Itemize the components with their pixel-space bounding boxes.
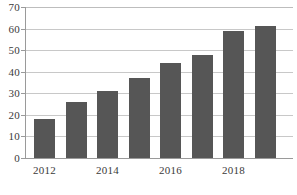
y-axis-line bbox=[25, 7, 26, 159]
y-tick-mark-40 bbox=[21, 72, 25, 73]
y-tick-mark-10 bbox=[21, 136, 25, 137]
bar-2014 bbox=[97, 91, 118, 158]
y-axis-label-60: 60 bbox=[0, 24, 20, 35]
x-axis-label-2016: 2016 bbox=[141, 164, 201, 176]
x-axis-label-2012: 2012 bbox=[15, 164, 75, 176]
y-axis-label-20: 20 bbox=[0, 110, 20, 121]
y-axis-label-30: 30 bbox=[0, 88, 20, 99]
x-axis-label-2018: 2018 bbox=[204, 164, 264, 176]
y-tick-mark-50 bbox=[21, 50, 25, 51]
y-tick-mark-0 bbox=[21, 158, 25, 159]
bar-2017 bbox=[192, 55, 213, 159]
x-axis-line bbox=[25, 158, 293, 159]
y-tick-mark-20 bbox=[21, 115, 25, 116]
bar-2012 bbox=[34, 119, 55, 158]
gridline-50 bbox=[25, 50, 293, 51]
bar-2019 bbox=[255, 26, 276, 158]
gridline-40 bbox=[25, 72, 293, 73]
y-axis-label-70: 70 bbox=[0, 2, 20, 13]
y-axis-label-10: 10 bbox=[0, 131, 20, 142]
bar-2013 bbox=[66, 102, 87, 158]
y-axis-label-0: 0 bbox=[0, 153, 20, 164]
y-tick-mark-30 bbox=[21, 93, 25, 94]
y-tick-mark-60 bbox=[21, 29, 25, 30]
bar-2016 bbox=[160, 63, 181, 158]
gridline-60 bbox=[25, 29, 293, 30]
bar-2018 bbox=[223, 31, 244, 158]
plot-area bbox=[25, 7, 293, 158]
y-axis-label-50: 50 bbox=[0, 45, 20, 56]
bar-2015 bbox=[129, 78, 150, 158]
y-axis-label-40: 40 bbox=[0, 67, 20, 78]
gridline-70 bbox=[25, 7, 293, 8]
y-tick-mark-70 bbox=[21, 7, 25, 8]
x-axis-label-2014: 2014 bbox=[78, 164, 138, 176]
gridline-30 bbox=[25, 93, 293, 94]
bar-chart: 70 60 50 40 30 20 10 0 2012 2014 2016 20… bbox=[0, 0, 297, 195]
